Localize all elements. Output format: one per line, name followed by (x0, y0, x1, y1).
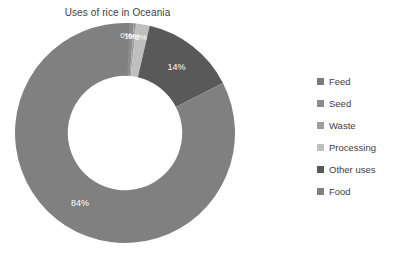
legend-swatch-icon (317, 188, 324, 195)
legend-item[interactable]: Food (317, 180, 398, 202)
legend-item-label: Seed (329, 98, 351, 109)
slice-group (15, 23, 235, 243)
legend-item[interactable]: Feed (317, 70, 398, 92)
legend-swatch-icon (317, 166, 324, 173)
legend-item-label: Waste (329, 120, 356, 131)
legend-item-label: Processing (329, 142, 376, 153)
legend-item-label: Feed (329, 76, 351, 87)
legend-item[interactable]: Waste (317, 114, 398, 136)
legend-item-label: Food (329, 186, 351, 197)
legend-swatch-icon (317, 122, 324, 129)
legend-item[interactable]: Other uses (317, 158, 398, 180)
legend-swatch-icon (317, 100, 324, 107)
legend-item[interactable]: Seed (317, 92, 398, 114)
legend-swatch-icon (317, 78, 324, 85)
donut-svg (14, 22, 236, 244)
donut-plot-area: 0%1%0%2%14%84% (14, 22, 236, 244)
legend-item-label: Other uses (329, 164, 375, 175)
donut-chart: Uses of rice in Oceania 0%1%0%2%14%84% F… (0, 0, 398, 257)
legend-swatch-icon (317, 144, 324, 151)
chart-legend: FeedSeedWasteProcessingOther usesFood (317, 70, 398, 202)
chart-title: Uses of rice in Oceania (0, 7, 235, 18)
legend-item[interactable]: Processing (317, 136, 398, 158)
